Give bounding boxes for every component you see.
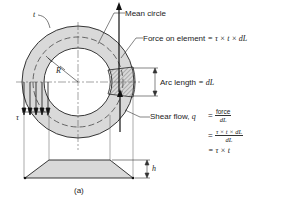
arc-length-dimension bbox=[133, 68, 158, 96]
shear-flow-text: Shear flow, bbox=[150, 112, 190, 121]
equals-sign: = bbox=[208, 111, 213, 120]
tau-label: τ bbox=[16, 113, 19, 122]
equation-line-1: = force dL bbox=[208, 108, 231, 123]
equals-sign: = bbox=[208, 131, 213, 140]
figure-caption: (a) bbox=[74, 186, 84, 195]
radius-label: R bbox=[56, 66, 61, 75]
force-on-element-label: Force on element = τ × t × dL bbox=[143, 34, 247, 43]
numerator: force bbox=[215, 108, 231, 116]
fraction-force-over-dL: force dL bbox=[215, 108, 231, 123]
t-leader bbox=[38, 15, 50, 28]
arc-length-text: Arc length bbox=[160, 78, 196, 87]
shear-flow-label: Shear flow, q bbox=[150, 112, 196, 121]
radius-dimension bbox=[46, 56, 78, 82]
shear-flow-distribution bbox=[24, 160, 135, 179]
force-on-element-text: Force on element bbox=[143, 34, 205, 43]
equation-line-3: = τ × t bbox=[208, 146, 230, 155]
denominator: dL bbox=[215, 116, 231, 123]
thickness-label: t bbox=[33, 10, 35, 19]
mean-circle-label: Mean circle bbox=[125, 9, 166, 18]
q-symbol: q bbox=[192, 112, 196, 121]
arc-length-label: Arc length = dL bbox=[160, 78, 214, 87]
shear-flow-diagram bbox=[0, 0, 292, 198]
element-hatched bbox=[108, 67, 135, 97]
fraction-tau-t-dL-over-dL: τ × t × dL dL bbox=[215, 128, 243, 143]
force-equation: = τ × t × dL bbox=[208, 34, 248, 43]
equation-line-2: = τ × t × dL dL bbox=[208, 128, 243, 143]
h-label: h bbox=[152, 164, 156, 173]
arc-length-equation: = dL bbox=[198, 78, 214, 87]
denominator: dL bbox=[215, 136, 243, 143]
numerator: τ × t × dL bbox=[215, 128, 243, 136]
